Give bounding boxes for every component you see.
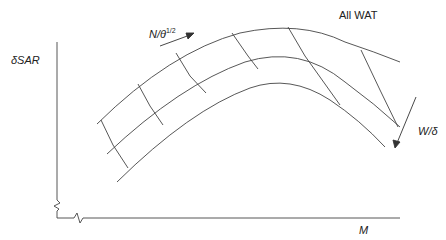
curve-top (97, 28, 400, 124)
arrow-n-theta-head (186, 33, 194, 39)
w-delta-label: W/δ (418, 125, 438, 137)
crossline-6 (361, 50, 398, 127)
crossline-5 (288, 27, 340, 105)
x-axis-label: M (359, 224, 368, 236)
curve-middle (107, 57, 400, 154)
n-theta-label: N/θ1/2 (149, 27, 176, 40)
carpet-plot-diagram (0, 0, 446, 240)
curve-bottom (117, 83, 385, 182)
arrow-w-delta-head (393, 140, 400, 148)
crossline-3 (176, 53, 206, 93)
arrow-w-delta-line (397, 97, 416, 143)
y-axis-label: δSAR (11, 54, 40, 66)
crossline-4 (232, 33, 258, 69)
crossline-1 (101, 120, 128, 168)
crossline-2 (138, 84, 163, 125)
all-wat-label: All WAT (339, 9, 378, 21)
